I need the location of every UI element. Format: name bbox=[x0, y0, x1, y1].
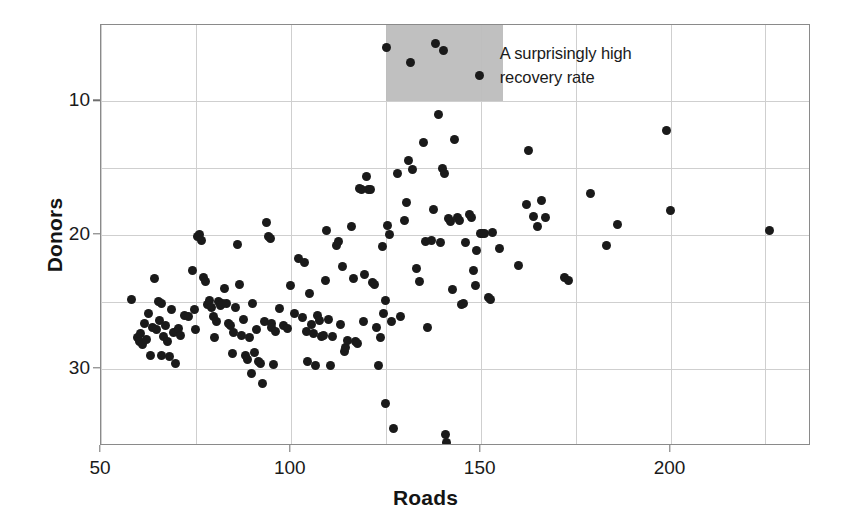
data-point bbox=[385, 230, 394, 239]
data-point bbox=[201, 277, 210, 286]
data-point bbox=[372, 323, 381, 332]
data-point bbox=[396, 312, 405, 321]
data-point bbox=[427, 236, 436, 245]
data-point bbox=[429, 205, 438, 214]
data-point bbox=[419, 138, 428, 147]
data-point bbox=[298, 313, 307, 322]
data-point bbox=[167, 305, 176, 314]
data-point bbox=[231, 303, 240, 312]
data-point bbox=[324, 315, 333, 324]
data-point bbox=[245, 333, 254, 342]
x-tick-mark bbox=[99, 445, 100, 452]
annotation-label: A surprisingly high recovery rate bbox=[500, 42, 632, 90]
data-point bbox=[455, 216, 464, 225]
data-point bbox=[366, 185, 375, 194]
x-tick-label: 100 bbox=[274, 457, 306, 479]
data-point bbox=[315, 316, 324, 325]
data-point bbox=[256, 359, 265, 368]
data-point bbox=[188, 266, 197, 275]
data-point bbox=[144, 309, 153, 318]
data-point bbox=[142, 335, 151, 344]
data-point bbox=[412, 264, 421, 273]
data-point bbox=[376, 333, 385, 342]
data-point bbox=[210, 333, 219, 342]
data-point bbox=[212, 317, 221, 326]
y-tick-mark bbox=[93, 99, 100, 100]
data-point bbox=[157, 299, 166, 308]
data-point bbox=[586, 189, 595, 198]
y-tick-label: 30 bbox=[38, 357, 90, 379]
data-point bbox=[666, 206, 675, 215]
y-tick-mark bbox=[93, 233, 100, 234]
gridline-horizontal bbox=[101, 168, 809, 169]
data-point bbox=[321, 276, 330, 285]
data-point bbox=[163, 337, 172, 346]
x-tick-mark bbox=[669, 445, 670, 452]
data-point bbox=[171, 359, 180, 368]
data-point bbox=[360, 270, 369, 279]
data-point bbox=[262, 218, 271, 227]
data-point bbox=[146, 351, 155, 360]
y-tick-label: 10 bbox=[38, 89, 90, 111]
gridline-vertical bbox=[101, 25, 102, 444]
plot-panel: A surprisingly high recovery rate bbox=[100, 24, 810, 445]
data-point bbox=[400, 216, 409, 225]
data-point bbox=[374, 361, 383, 370]
data-point bbox=[243, 355, 252, 364]
data-point bbox=[248, 299, 257, 308]
data-point bbox=[389, 424, 398, 433]
data-point bbox=[602, 241, 611, 250]
highlight-region bbox=[386, 25, 504, 101]
data-point bbox=[266, 234, 275, 243]
data-point bbox=[349, 274, 358, 283]
data-point bbox=[222, 299, 231, 308]
data-point bbox=[404, 156, 413, 165]
data-point bbox=[362, 172, 371, 181]
data-point bbox=[765, 226, 774, 235]
data-point bbox=[247, 369, 256, 378]
data-point bbox=[495, 244, 504, 253]
gridline-vertical bbox=[291, 25, 292, 444]
data-point bbox=[381, 399, 390, 408]
x-tick-mark bbox=[289, 445, 290, 452]
data-point bbox=[434, 110, 443, 119]
data-point bbox=[190, 305, 199, 314]
data-point bbox=[319, 331, 328, 340]
data-point bbox=[541, 213, 550, 222]
data-point bbox=[300, 258, 309, 267]
data-point bbox=[334, 237, 343, 246]
data-point bbox=[353, 339, 362, 348]
data-point bbox=[524, 146, 533, 155]
data-point bbox=[522, 200, 531, 209]
data-point bbox=[228, 349, 237, 358]
data-point bbox=[161, 321, 170, 330]
data-point bbox=[431, 39, 440, 48]
data-point bbox=[533, 222, 542, 231]
data-point bbox=[347, 222, 356, 231]
data-point bbox=[127, 295, 136, 304]
y-tick-mark bbox=[93, 367, 100, 368]
gridline-vertical bbox=[671, 25, 672, 444]
data-point bbox=[233, 240, 242, 249]
data-point bbox=[613, 220, 622, 229]
x-axis-title: Roads bbox=[0, 486, 851, 510]
data-point bbox=[336, 320, 345, 329]
x-tick-label: 200 bbox=[654, 457, 686, 479]
y-tick-label: 20 bbox=[38, 223, 90, 245]
x-tick-mark bbox=[479, 445, 480, 452]
data-point bbox=[370, 280, 379, 289]
data-point bbox=[387, 317, 396, 326]
data-point bbox=[359, 317, 368, 326]
data-point bbox=[283, 324, 292, 333]
gridline-horizontal bbox=[101, 101, 809, 102]
data-point bbox=[459, 299, 468, 308]
data-point bbox=[537, 196, 546, 205]
data-point bbox=[197, 236, 206, 245]
x-tick-label: 50 bbox=[89, 457, 110, 479]
data-point bbox=[239, 315, 248, 324]
data-point bbox=[408, 165, 417, 174]
data-point bbox=[436, 238, 445, 247]
data-point bbox=[379, 309, 388, 318]
gridline-horizontal bbox=[101, 369, 809, 370]
data-point bbox=[469, 266, 478, 275]
